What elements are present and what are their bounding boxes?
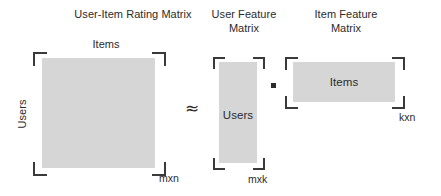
item-feature-matrix-dimension-label: kxn	[399, 111, 416, 123]
user-feature-matrix-block: Users	[219, 62, 257, 163]
approximately-equals-operator: ≈	[183, 100, 201, 117]
user-feature-matrix-bracket-bottom-right	[253, 158, 265, 170]
user-feature-matrix-title: User Feature Matrix	[200, 8, 288, 35]
item-feature-matrix-block: Items	[293, 62, 395, 102]
user-feature-matrix-bracket-top-right	[253, 57, 265, 69]
rating-matrix-dimension-label: mxn	[159, 172, 179, 184]
user-feature-matrix-bracket-bottom-left	[213, 158, 225, 170]
item-feature-matrix-title: Item Feature Matrix	[300, 8, 392, 35]
user-feature-matrix-dimension-label: mxk	[248, 173, 267, 185]
rating-matrix-users-axis-label: Users	[16, 84, 28, 144]
item-feature-matrix-bracket-bottom-right	[392, 96, 405, 109]
matrix-factorization-diagram: User-Item Rating Matrix User Feature Mat…	[0, 0, 441, 196]
user-feature-matrix-users-label: Users	[219, 109, 257, 121]
rating-matrix-items-axis-label: Items	[56, 38, 156, 50]
multiplication-dot-operator	[271, 83, 276, 88]
rating-matrix-bracket-bottom-left	[33, 162, 47, 176]
item-feature-matrix-bracket-bottom-left	[285, 96, 298, 109]
rating-matrix-title: User-Item Rating Matrix	[48, 8, 218, 22]
item-feature-matrix-bracket-top-right	[392, 57, 405, 70]
item-feature-matrix-bracket-top-left	[285, 57, 298, 70]
rating-matrix-bracket-top-left	[33, 52, 47, 66]
user-item-rating-matrix-block	[42, 58, 155, 168]
rating-matrix-fill	[42, 58, 155, 168]
rating-matrix-bracket-top-right	[152, 52, 166, 66]
item-feature-matrix-items-label: Items	[293, 76, 395, 88]
user-feature-matrix-bracket-top-left	[213, 57, 225, 69]
